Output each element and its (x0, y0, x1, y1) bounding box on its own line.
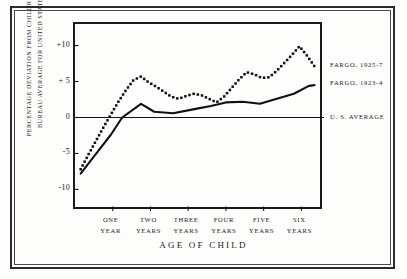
y-axis-title-line1: PERCENTAGE DEVIATION FROM CHILDREN'S (25, 0, 32, 136)
x-axis-tick-label-line2: YEARS (249, 225, 274, 236)
x-axis-tick-label-line1: FIVE (249, 214, 274, 225)
x-axis-tick-label: ONEYEAR (100, 214, 121, 236)
x-axis-tick-label: TWOYEARS (136, 214, 161, 236)
x-axis-tick-label-line2: YEARS (287, 225, 312, 236)
x-axis-tick-label-line2: YEARS (174, 225, 199, 236)
plot-area (73, 22, 322, 209)
y-axis-tick-label: -10 (58, 183, 70, 192)
x-axis-tick-label-line1: SIX (287, 214, 312, 225)
y-axis-tick-label: -5 (63, 147, 70, 156)
x-axis-tick-label-line1: FOUR (211, 214, 236, 225)
x-axis-title: AGE OF CHILD (0, 240, 407, 250)
series-line-fargo-1923-4 (81, 85, 315, 173)
legend-label: FARGO, 1923-4 (330, 79, 383, 86)
x-axis-tick-label: SIXYEARS (287, 214, 312, 236)
plot-canvas (75, 24, 324, 211)
x-axis-tick-label-line2: YEARS (136, 225, 161, 236)
legend-label: FARGO, 1925-7 (330, 60, 383, 67)
x-axis-tick-label: FIVEYEARS (249, 214, 274, 236)
x-axis-tick-label-line1: TWO (136, 214, 161, 225)
y-axis-tick-label: +10 (57, 39, 70, 48)
x-axis-tick-label-line2: YEAR (100, 225, 121, 236)
x-axis-tick-label-line1: THREE (174, 214, 199, 225)
legend-label: U. S. AVERAGE (330, 112, 384, 119)
x-axis-tick-label-line1: ONE (100, 214, 121, 225)
y-axis-title: PERCENTAGE DEVIATION FROM CHILDREN'S BUR… (23, 0, 45, 141)
y-axis-title-line2: BUREAU AVERAGE FOR UNITED STATES (34, 0, 45, 141)
y-axis-tick-label: 0 (66, 111, 70, 120)
x-axis-tick-label: FOURYEARS (211, 214, 236, 236)
x-axis-tick-label-line2: YEARS (211, 225, 236, 236)
figure-root: PERCENTAGE DEVIATION FROM CHILDREN'S BUR… (0, 0, 407, 279)
x-axis-tick-label: THREEYEARS (174, 214, 199, 236)
y-axis-tick-label: + 5 (59, 75, 70, 84)
